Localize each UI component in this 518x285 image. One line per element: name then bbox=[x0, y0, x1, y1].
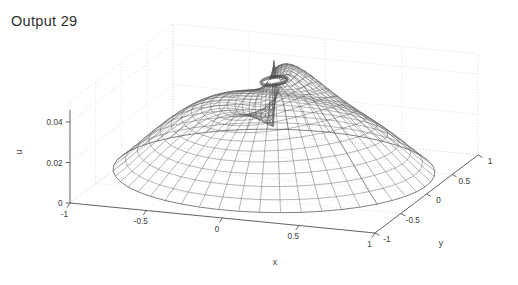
surface-plot: -1-0.500.51-1-0.500.5100.020.04xyu bbox=[0, 0, 518, 285]
mesh-line bbox=[199, 112, 274, 207]
page-title: Output 29 bbox=[11, 13, 77, 29]
tick-label: 0.5 bbox=[459, 177, 471, 186]
mesh-line bbox=[274, 78, 360, 207]
axis-title: x bbox=[273, 257, 278, 267]
mesh-line bbox=[274, 64, 435, 171]
tick-mark bbox=[143, 211, 146, 216]
tick-label: -0.5 bbox=[406, 216, 421, 225]
mesh-line bbox=[142, 70, 274, 145]
tick-mark bbox=[452, 175, 456, 177]
tick-label: -1 bbox=[61, 210, 69, 219]
tick-mark bbox=[220, 218, 223, 223]
figure-canvas: Output 29 -1-0.500.51-1-0.500.5100.020.0… bbox=[0, 0, 518, 285]
tick-mark bbox=[401, 214, 405, 216]
tick-label: -1 bbox=[383, 235, 391, 244]
tick-label: 0 bbox=[436, 196, 441, 205]
tick-mark bbox=[296, 226, 299, 231]
tick-label: 0 bbox=[215, 225, 220, 234]
grid-line bbox=[122, 164, 427, 194]
mesh-line bbox=[239, 106, 274, 211]
tick-label: 0.5 bbox=[288, 232, 300, 241]
tick-label: -0.5 bbox=[134, 217, 149, 226]
axis-title: u bbox=[14, 149, 24, 154]
tick-label: 0 bbox=[58, 199, 63, 208]
axis-labels: -1-0.500.51-1-0.500.5100.020.04xyu bbox=[14, 118, 493, 267]
tick-label: 0.04 bbox=[47, 118, 63, 127]
mesh-line bbox=[274, 83, 342, 210]
mesh-line bbox=[274, 68, 406, 196]
axis-title: y bbox=[439, 238, 444, 248]
tick-mark bbox=[478, 155, 482, 157]
tick-label: 1 bbox=[488, 157, 493, 166]
tick-mark bbox=[375, 233, 379, 235]
tick-mark bbox=[67, 203, 70, 208]
mesh-line bbox=[150, 115, 274, 196]
tick-marks bbox=[66, 122, 483, 238]
mesh-line bbox=[274, 97, 281, 212]
mesh-line bbox=[123, 80, 274, 155]
tick-mark bbox=[372, 233, 375, 238]
tick-label: 1 bbox=[367, 240, 372, 249]
mesh-line bbox=[113, 129, 435, 213]
mesh-line bbox=[218, 109, 274, 209]
tick-mark bbox=[427, 194, 431, 196]
mesh-line bbox=[125, 123, 422, 200]
tick-label: 0.02 bbox=[47, 159, 63, 168]
mesh-line bbox=[274, 68, 383, 142]
